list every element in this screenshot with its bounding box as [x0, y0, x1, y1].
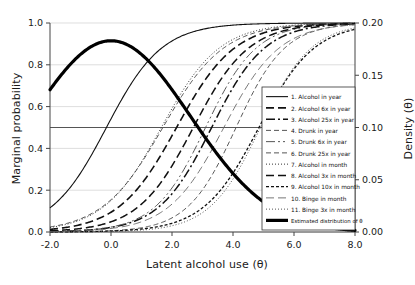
legend-label-5: 5. Drunk 6x in year: [291, 139, 347, 146]
x-tick-label: 8.0: [347, 239, 362, 250]
x-tick-label: 6.0: [286, 239, 301, 250]
x-axis-title: Latent alcohol use (θ): [0, 258, 414, 271]
legend-label-8: 8. Alcohol 3x in month: [291, 173, 357, 179]
x-tick-label: 4.0: [225, 239, 240, 250]
x-tick-label: 0.0: [103, 239, 118, 250]
legend-label-6: 6. Drunk 25x in year: [291, 151, 351, 158]
y-tick-label-left: 0.8: [28, 59, 43, 70]
y-tick-label-right: 0.15: [362, 70, 383, 81]
y-tick-label-right: 0.10: [362, 122, 383, 133]
legend-label-4: 4. Drunk in year: [291, 128, 338, 135]
y-tick-label-left: 0.4: [28, 143, 43, 154]
legend-label-10: 10. Binge in month: [291, 196, 347, 203]
x-tick-label: 2.0: [164, 239, 179, 250]
y-tick-label-left: 0.6: [28, 101, 43, 112]
y-tick-label-right: 0.05: [362, 174, 383, 185]
legend-label-12: Estimated distribution of θ: [291, 218, 363, 224]
legend-label-2: 2. Alcohol 6x in year: [291, 106, 351, 113]
legend-label-3: 3. Alcohol 25x in year: [291, 117, 355, 124]
legend: 1. Alcohol in year2. Alcohol 6x in year3…: [262, 87, 363, 230]
y-tick-label-right: 0.00: [362, 226, 383, 237]
y-tick-label-right: 0.20: [362, 17, 383, 28]
y-axis-title-right: Density (θ): [402, 29, 415, 229]
y-tick-label-left: 0.0: [28, 226, 43, 237]
legend-label-9: 9. Alcohol 10x in month: [291, 184, 360, 190]
legend-label-1: 1. Alcohol in year: [291, 94, 342, 101]
y-axis-title-left: Marginal probability: [10, 29, 23, 229]
legend-label-11: 11. Binge 3x in month: [291, 207, 356, 214]
legend-label-7: 7. Alcohol in month: [291, 162, 348, 168]
y-tick-label-left: 1.0: [28, 17, 43, 28]
y-tick-label-left: 0.2: [28, 185, 43, 196]
x-tick-label: -2.0: [41, 239, 60, 250]
